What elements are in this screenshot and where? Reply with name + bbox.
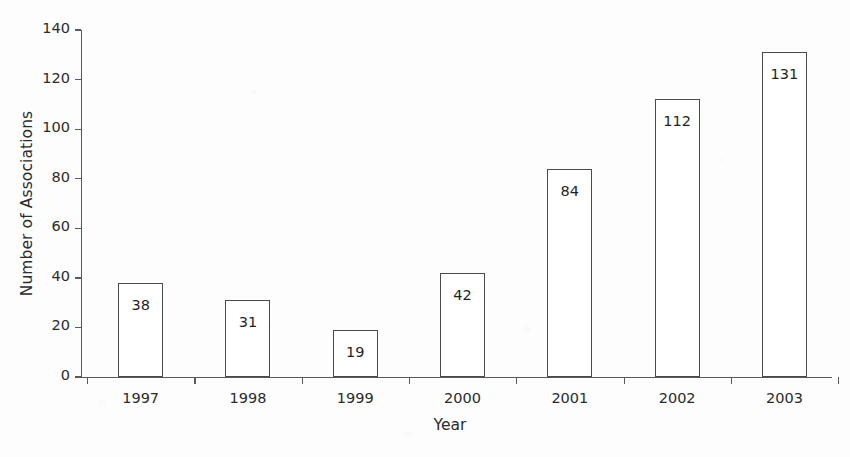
y-axis-line <box>81 30 82 378</box>
x-tick-mark <box>409 377 410 384</box>
x-tick-mark <box>516 377 517 384</box>
bar-chart: Number of Associations 02040608010012014… <box>0 0 850 457</box>
x-tick-mark <box>731 377 732 384</box>
x-tick-mark <box>838 377 839 384</box>
x-tick-label: 2001 <box>525 390 615 406</box>
x-tick-label: 2002 <box>632 390 722 406</box>
y-tick-label: 40 <box>26 268 70 284</box>
bar <box>762 52 807 377</box>
x-tick-mark <box>194 377 195 384</box>
bar-value-label: 19 <box>332 344 378 360</box>
x-tick-label: 1998 <box>203 390 293 406</box>
scan-texture <box>0 0 850 457</box>
y-tick-label: 20 <box>26 317 70 333</box>
y-tick-label: 60 <box>26 218 70 234</box>
x-axis-title: Year <box>330 416 570 434</box>
bar-value-label: 38 <box>118 297 164 313</box>
bar-value-label: 42 <box>440 287 486 303</box>
bar <box>225 300 270 377</box>
y-tick-label: 140 <box>26 20 70 36</box>
x-tick-label: 1997 <box>96 390 186 406</box>
x-tick-label: 2000 <box>418 390 508 406</box>
x-tick-mark <box>87 377 88 384</box>
bar <box>655 99 700 377</box>
bar <box>547 169 592 377</box>
bar-value-label: 84 <box>547 183 593 199</box>
bar-value-label: 131 <box>761 66 807 82</box>
y-tick-label: 80 <box>26 169 70 185</box>
y-tick-label: 100 <box>26 119 70 135</box>
x-tick-label: 1999 <box>310 390 400 406</box>
y-tick-label: 120 <box>26 70 70 86</box>
bar-value-label: 112 <box>654 113 700 129</box>
bar-value-label: 31 <box>225 314 271 330</box>
x-tick-mark <box>302 377 303 384</box>
x-tick-mark <box>624 377 625 384</box>
y-tick-label: 0 <box>26 367 70 383</box>
x-tick-label: 2003 <box>739 390 829 406</box>
